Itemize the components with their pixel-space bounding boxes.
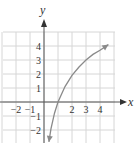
y-axis-arrow-icon (41, 19, 47, 27)
y-tick-label: 1 (36, 83, 41, 94)
curve-end-arrow-icon (102, 45, 109, 51)
y-tick-label: −1 (30, 111, 41, 122)
x-tick-label: 4 (98, 104, 103, 115)
y-tick-label: 3 (36, 55, 41, 66)
x-axis-arrow-icon (120, 99, 127, 105)
log-curve-chart: −2−12344321−1−2 x y (0, 0, 138, 143)
grid-lines (2, 32, 115, 143)
y-tick-label: 2 (36, 69, 41, 80)
curve-arrowheads (47, 45, 109, 142)
x-tick-label: −2 (11, 104, 22, 115)
x-tick-label: 3 (84, 104, 89, 115)
axes (0, 19, 127, 143)
x-axis-label: x (127, 95, 134, 109)
curve-start-arrow-icon (47, 136, 53, 142)
y-tick-label: 4 (36, 41, 41, 52)
x-tick-label: 2 (70, 104, 75, 115)
y-tick-label: −2 (30, 125, 41, 136)
y-axis-label: y (39, 3, 46, 17)
